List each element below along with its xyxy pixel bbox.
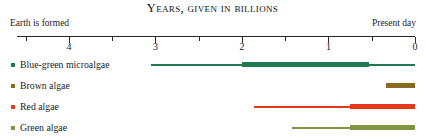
axis-minor-tick — [112, 37, 113, 41]
timeline-row: Green algae — [0, 117, 425, 138]
axis-tick-label-2: 2 — [239, 41, 244, 52]
axis-minor-tick — [199, 37, 200, 41]
axis-minor-tick — [26, 37, 27, 41]
axis-caption-earth-is-formed: Earth is formed — [10, 18, 69, 28]
bar-segment-thick — [350, 104, 415, 110]
axis-caption-present-day: Present day — [372, 18, 416, 28]
bar-track — [0, 96, 425, 117]
bar-segment-thick — [350, 125, 415, 131]
timeline-chart: Years, given in billions Earth is formed… — [0, 0, 425, 140]
bar-segment-thick — [242, 62, 369, 68]
timeline-row: Red algae — [0, 96, 425, 117]
axis-tick-label-4: 4 — [66, 41, 71, 52]
time-axis-line — [17, 36, 415, 37]
timeline-row: Brown algae — [0, 75, 425, 96]
bar-segment-thick — [386, 83, 415, 89]
timeline-row: Blue-green microalgae — [0, 54, 425, 75]
bar-track — [0, 54, 425, 75]
bar-track — [0, 75, 425, 96]
bar-track — [0, 117, 425, 138]
chart-title: Years, given in billions — [0, 1, 425, 16]
axis-tick-label-3: 3 — [153, 41, 158, 52]
axis-tick-label-0: 0 — [413, 41, 418, 52]
axis-minor-tick — [372, 37, 373, 41]
axis-tick-label-1: 1 — [326, 41, 331, 52]
axis-minor-tick — [285, 37, 286, 41]
